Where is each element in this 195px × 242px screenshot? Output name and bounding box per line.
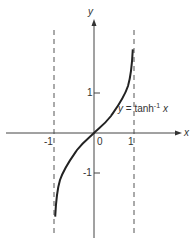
y-tick-label-1: 1: [87, 88, 93, 98]
x-tick-label-neg1: -1: [44, 137, 53, 147]
y-axis-label: y: [88, 7, 93, 17]
x-tick-label-pos1: 1: [128, 137, 134, 147]
curve-label-sup: -1: [154, 102, 160, 109]
plot-area: [0, 0, 195, 242]
x-axis-label: x: [184, 128, 189, 138]
curve-label: y = tanh-1 x: [118, 104, 168, 114]
curve-label-eq: = tanh: [123, 103, 154, 114]
y-axis-arrow-icon: [92, 19, 97, 26]
y-tick-label-neg1: -1: [83, 168, 92, 178]
x-axis-arrow-icon: [175, 131, 182, 136]
curve-label-x: x: [163, 103, 168, 114]
x-tick-label-zero: 0: [97, 137, 103, 147]
